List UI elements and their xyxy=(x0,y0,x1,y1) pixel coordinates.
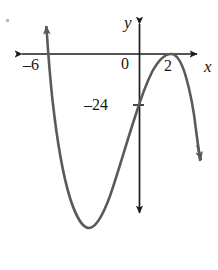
origin-label: 0 xyxy=(121,56,129,72)
x-intercept-left-label: –6 xyxy=(23,57,39,73)
graph-canvas xyxy=(0,0,218,270)
cubic-graph-figure: y x 0 –6 2 –24 xyxy=(0,0,218,270)
y-intercept-label: –24 xyxy=(84,97,108,113)
y-axis-label: y xyxy=(124,14,132,31)
x-axis-label: x xyxy=(204,58,212,75)
x-intercept-right-label: 2 xyxy=(164,58,172,74)
